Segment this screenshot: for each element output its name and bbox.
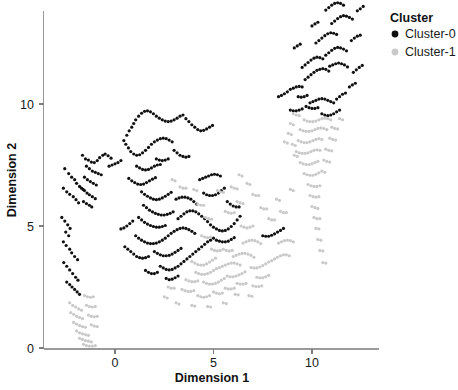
data-point <box>84 157 87 160</box>
data-point <box>147 146 150 149</box>
data-point <box>320 97 323 100</box>
data-point <box>238 205 241 208</box>
data-point <box>205 127 208 130</box>
data-point <box>70 176 73 179</box>
y-tick-label: 10 <box>20 98 34 112</box>
data-point <box>276 231 279 234</box>
data-point <box>315 185 318 188</box>
data-point <box>233 187 236 190</box>
data-point <box>107 154 110 157</box>
data-point <box>224 229 227 232</box>
data-point <box>282 227 285 230</box>
data-point <box>178 115 181 118</box>
data-point <box>237 293 240 296</box>
data-point <box>137 237 140 240</box>
data-point <box>68 283 71 286</box>
data-point <box>188 255 191 258</box>
data-point <box>306 183 309 186</box>
data-point <box>356 35 359 38</box>
data-point <box>276 256 279 259</box>
data-point <box>145 206 148 209</box>
data-point <box>328 137 331 140</box>
data-point <box>184 278 187 281</box>
data-point <box>242 226 245 229</box>
data-point <box>163 213 166 216</box>
legend-label: Cluster-1 <box>405 45 456 59</box>
data-point <box>241 241 244 244</box>
data-point <box>338 109 341 112</box>
data-point <box>135 165 138 168</box>
data-point <box>248 183 251 186</box>
scatter-plot-figure: 0510 0510 Dimension 1 Dimension 2 Cluste… <box>0 0 458 390</box>
data-point <box>134 234 137 237</box>
data-point <box>212 226 215 229</box>
data-point <box>208 126 211 129</box>
data-point <box>202 296 205 299</box>
data-point <box>88 305 91 308</box>
data-point <box>289 109 292 112</box>
data-point <box>188 209 191 212</box>
data-point <box>135 154 138 157</box>
data-point <box>206 240 209 243</box>
data-point <box>254 285 257 288</box>
data-point <box>315 217 318 220</box>
data-point <box>251 224 254 227</box>
data-point <box>273 218 276 221</box>
data-point <box>129 250 132 253</box>
data-point <box>183 196 186 199</box>
data-point <box>176 249 179 252</box>
data-point <box>252 256 255 259</box>
data-point <box>211 282 214 285</box>
data-point <box>83 189 86 192</box>
data-point <box>325 160 328 163</box>
data-point <box>310 162 313 165</box>
data-point <box>330 22 333 25</box>
data-point <box>257 285 260 288</box>
data-point <box>292 189 295 192</box>
data-point <box>69 311 72 314</box>
data-point <box>141 168 144 171</box>
data-point <box>140 218 143 221</box>
data-point <box>204 216 207 219</box>
data-point <box>218 292 221 295</box>
data-point <box>199 129 202 132</box>
data-point <box>179 262 182 265</box>
data-point <box>215 239 218 242</box>
data-point <box>304 63 307 66</box>
data-point <box>125 134 128 137</box>
data-point <box>354 82 357 85</box>
data-point <box>116 161 119 164</box>
data-point <box>96 325 99 328</box>
data-point <box>86 178 89 181</box>
data-point <box>294 144 297 147</box>
data-point <box>233 211 236 214</box>
data-point <box>65 265 68 268</box>
data-point <box>170 232 173 235</box>
data-point <box>200 234 203 237</box>
data-point <box>317 39 320 42</box>
data-point <box>322 127 325 130</box>
data-point <box>343 63 346 66</box>
data-point <box>345 49 348 52</box>
data-point <box>298 151 301 154</box>
data-point <box>318 217 321 220</box>
data-point <box>329 113 332 116</box>
data-point <box>84 339 87 342</box>
data-point <box>310 129 313 132</box>
data-point <box>310 24 313 27</box>
data-point <box>279 210 282 213</box>
data-point <box>210 173 213 176</box>
data-point <box>333 47 336 50</box>
data-point <box>200 215 203 218</box>
data-point <box>190 304 193 307</box>
data-point <box>336 1 339 4</box>
data-point <box>297 95 300 98</box>
data-point <box>132 252 135 255</box>
y-tick-label: 0 <box>27 342 34 356</box>
data-point <box>100 173 103 176</box>
data-point <box>177 302 180 305</box>
data-point <box>181 155 184 158</box>
data-point <box>207 174 210 177</box>
data-point <box>181 226 184 229</box>
data-point <box>196 294 199 297</box>
